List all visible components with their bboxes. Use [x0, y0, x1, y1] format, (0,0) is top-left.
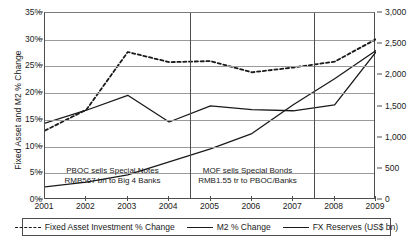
x-axis-tick-label: 2002 — [76, 201, 95, 211]
y-axis-right-tick-label: 0 — [385, 194, 390, 204]
x-axis-tick-label: 2003 — [117, 201, 136, 211]
x-axis-tick-mark — [210, 196, 211, 201]
x-axis-tick-mark — [292, 196, 293, 201]
legend-item: Fixed Asset Investment % Change — [15, 222, 175, 232]
y-axis-right-tick-label: 2,500 — [385, 38, 406, 48]
y-axis-right-tick-label: 2,000 — [385, 69, 406, 79]
y-axis-left-tick-label: 10% — [8, 141, 42, 151]
gridline — [45, 120, 374, 121]
series-line — [45, 39, 376, 130]
y-axis-right-tick-mark — [377, 43, 382, 44]
y-axis-left-tick-mark — [38, 199, 43, 200]
y-axis-left-tick-mark — [38, 118, 43, 119]
gridline — [45, 93, 374, 94]
y-axis-right-tick-label: 500 — [385, 163, 399, 173]
x-axis-tick-label: 2004 — [159, 201, 178, 211]
x-axis-tick-label: 2009 — [366, 201, 385, 211]
x-axis-tick-label: 2006 — [241, 201, 260, 211]
x-axis-tick-label: 2007 — [283, 201, 302, 211]
x-axis-tick-mark — [375, 196, 376, 201]
y-axis-left-tick-label: 15% — [8, 114, 42, 124]
x-axis-tick-mark — [251, 196, 252, 201]
annotation-mof-line-1: MOF sells Special Bonds — [180, 166, 315, 176]
y-axis-right-tick-mark — [377, 105, 382, 106]
y-axis-right-tick-label: 1,500 — [385, 101, 406, 111]
y-axis-left-tick-label: 5% — [8, 167, 42, 177]
annotation-pboc-special-notes: PBOC sells Special Notes RMB567 bn to Bi… — [50, 166, 175, 186]
legend-swatch-solid — [187, 227, 213, 228]
annotation-pboc-line-2: RMB567 bn to Big 4 Banks — [50, 176, 175, 186]
x-axis-tick-label: 2001 — [35, 201, 54, 211]
gridline — [45, 147, 374, 148]
x-axis-tick-mark — [168, 196, 169, 201]
x-axis-tick-label: 2005 — [200, 201, 219, 211]
gridline — [45, 66, 374, 67]
y-axis-left-tick-label: 35% — [8, 7, 42, 17]
x-axis-ticks: 200120022003200420052006200720082009 — [44, 201, 375, 217]
x-axis-tick-mark — [85, 196, 86, 201]
annotation-mof-special-bonds: MOF sells Special Bonds RMB1.55 tr to PB… — [180, 166, 315, 186]
x-axis-tick-label: 2008 — [324, 201, 343, 211]
y-axis-right-tick-mark — [377, 199, 382, 200]
y-axis-left-tick-label: 25% — [8, 60, 42, 70]
y-axis-right-tick-mark — [377, 12, 382, 13]
y-axis-right-tick-label: 1,000 — [385, 132, 406, 142]
y-axis-right-tick-mark — [377, 74, 382, 75]
legend-swatch-dashed — [15, 227, 41, 228]
x-axis-tick-mark — [127, 196, 128, 201]
chart-container: Fixed Asset and M2 % Change FX Reserves … — [0, 0, 413, 240]
legend-label: M2 % Change — [217, 222, 271, 232]
legend-label: FX Reserves (US$ bn) — [313, 222, 399, 232]
y-axis-left-tick-mark — [38, 145, 43, 146]
y-axis-right-tick-mark — [377, 167, 382, 168]
gridline — [45, 40, 374, 41]
legend-label: Fixed Asset Investment % Change — [45, 222, 175, 232]
y-axis-left-tick-mark — [38, 92, 43, 93]
legend-swatch-solid — [283, 227, 309, 228]
y-axis-right-tick-label: 3,000 — [385, 7, 406, 17]
y-axis-right-tick-mark — [377, 136, 382, 137]
annotation-pboc-line-1: PBOC sells Special Notes — [50, 166, 175, 176]
y-axis-left-tick-label: 20% — [8, 87, 42, 97]
y-axis-left-tick-mark — [38, 65, 43, 66]
y-axis-left-tick-mark — [38, 12, 43, 13]
legend-item: M2 % Change — [187, 222, 271, 232]
legend-item: FX Reserves (US$ bn) — [283, 222, 399, 232]
annotation-mof-line-2: RMB1.55 tr to PBOC/Banks — [180, 176, 315, 186]
y-axis-left-tick-mark — [38, 172, 43, 173]
x-axis-tick-mark — [334, 196, 335, 201]
chart-legend: Fixed Asset Investment % ChangeM2 % Chan… — [22, 218, 391, 236]
y-axis-left-tick-mark — [38, 38, 43, 39]
y-axis-left-tick-label: 30% — [8, 34, 42, 44]
